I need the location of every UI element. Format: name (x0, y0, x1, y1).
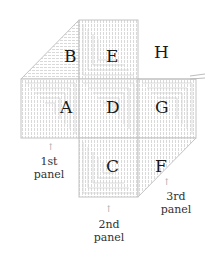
label-f: F (155, 158, 167, 175)
caption-1st-panel: 1st panel (32, 155, 66, 181)
caption-3rd-panel: 3rd panel (158, 190, 194, 216)
square-f (138, 138, 196, 197)
label-c: C (106, 158, 119, 175)
arrow-up-icon: ↑ (163, 178, 171, 187)
label-g: G (155, 99, 169, 116)
caption-2nd-panel: 2nd panel (92, 218, 126, 244)
arrow-up-icon: ↑ (105, 205, 113, 214)
label-b: B (64, 48, 77, 65)
label-a: A (60, 99, 72, 116)
label-e: E (106, 48, 118, 65)
arrow-up-icon: ↑ (47, 143, 55, 152)
label-h: H (154, 44, 169, 61)
label-d: D (106, 99, 120, 116)
